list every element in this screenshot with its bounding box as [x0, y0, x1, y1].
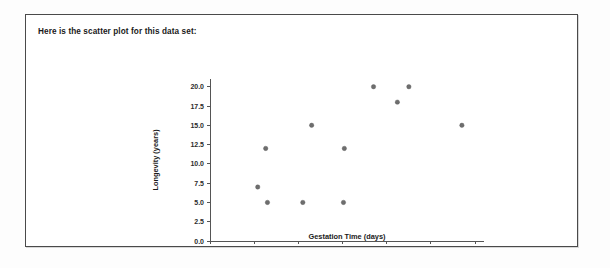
- data-point: [263, 146, 267, 150]
- y-tick-label: 5.0: [194, 199, 204, 206]
- y-axis-ticks: 0.02.55.07.510.012.515.017.520.0: [190, 83, 210, 244]
- document-frame: Here is the scatter plot for this data s…: [25, 14, 578, 247]
- y-tick-label: 0.0: [194, 238, 204, 245]
- page-root: Here is the scatter plot for this data s…: [0, 0, 610, 268]
- data-point: [395, 100, 399, 104]
- y-axis-title: Longevity (years): [151, 129, 160, 191]
- scatter-plot-figure: 0.02.55.07.510.012.515.017.520.0 0501001…: [136, 53, 566, 245]
- data-point: [407, 85, 411, 89]
- page-heading: Here is the scatter plot for this data s…: [38, 27, 197, 36]
- data-point: [460, 123, 464, 127]
- y-tick-label: 10.0: [190, 160, 204, 167]
- y-tick-label: 12.5: [190, 141, 204, 148]
- data-point: [341, 200, 345, 204]
- y-tick-label: 20.0: [190, 83, 204, 90]
- y-tick-label: 17.5: [190, 103, 204, 110]
- data-point: [309, 123, 313, 127]
- scatter-plot-svg: 0.02.55.07.510.012.515.017.520.0 0501001…: [136, 53, 566, 245]
- y-tick-label: 2.5: [194, 218, 204, 225]
- data-point: [256, 185, 260, 189]
- data-point: [301, 200, 305, 204]
- data-point: [342, 146, 346, 150]
- data-point: [371, 85, 375, 89]
- x-axis-ticks: 050100150200250300: [208, 241, 481, 245]
- data-point: [265, 200, 269, 204]
- y-tick-label: 15.0: [190, 122, 204, 129]
- x-axis-title: Gestation Time (days): [308, 232, 386, 241]
- data-points-layer: [256, 85, 465, 205]
- y-tick-label: 7.5: [194, 180, 204, 187]
